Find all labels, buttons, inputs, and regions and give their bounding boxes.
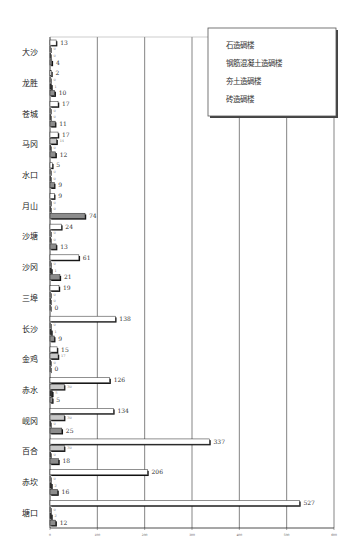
bar bbox=[50, 347, 57, 352]
bar bbox=[50, 360, 51, 365]
value-label: 134 bbox=[117, 407, 129, 414]
bar bbox=[50, 224, 61, 229]
bar bbox=[50, 169, 51, 174]
bar bbox=[50, 367, 51, 372]
category-label: 水口 bbox=[22, 170, 38, 180]
value-label-small: 30 bbox=[67, 446, 71, 450]
value-label: 13 bbox=[60, 39, 68, 46]
value-label-small: 0 bbox=[54, 477, 56, 481]
value-label: 61 bbox=[83, 254, 91, 261]
legend-item-brick: 砖造碉楼 bbox=[226, 94, 255, 104]
bar bbox=[50, 439, 210, 444]
category-label: 马冈 bbox=[22, 140, 38, 149]
bar bbox=[50, 286, 59, 291]
bar bbox=[50, 353, 58, 358]
bar-shadow bbox=[51, 78, 52, 83]
bar bbox=[50, 421, 51, 426]
bar bbox=[50, 261, 51, 266]
value-label: 138 bbox=[119, 315, 131, 322]
tick-label: 500 bbox=[284, 533, 290, 537]
bar-shadow bbox=[51, 368, 52, 373]
bar bbox=[50, 384, 64, 389]
tick-label: 400 bbox=[236, 533, 242, 537]
category-label: 长沙 bbox=[22, 324, 38, 334]
value-label-small: 0 bbox=[54, 231, 56, 235]
bar bbox=[50, 323, 51, 328]
bar bbox=[50, 255, 79, 260]
value-label-small: 0 bbox=[54, 453, 56, 457]
value-label-small: 0 bbox=[54, 207, 56, 211]
bar-shadow bbox=[51, 453, 52, 458]
bar-shadow bbox=[51, 508, 52, 513]
bar bbox=[50, 145, 51, 150]
value-label-small: 0 bbox=[54, 508, 56, 512]
legend-item-concrete: 钢筋混凝土造碉楼 bbox=[226, 58, 283, 68]
bar bbox=[50, 459, 59, 464]
value-label-small: 0 bbox=[54, 170, 56, 174]
bar-shadow bbox=[51, 477, 52, 482]
bar bbox=[50, 520, 56, 525]
bar bbox=[50, 292, 51, 297]
value-label-small: 17 bbox=[61, 354, 65, 358]
value-label: 5 bbox=[56, 396, 60, 403]
bar-shadow bbox=[51, 177, 52, 182]
bar bbox=[50, 244, 56, 249]
value-label-small: 0 bbox=[54, 47, 56, 51]
value-label-small: 0 bbox=[54, 115, 56, 119]
bar bbox=[50, 446, 64, 451]
bar bbox=[50, 71, 52, 76]
value-label-small: 0 bbox=[54, 323, 56, 327]
value-label: 13 bbox=[60, 243, 68, 250]
value-label: 11 bbox=[59, 120, 67, 127]
value-label-small: 0 bbox=[54, 238, 56, 242]
value-label-small: 14 bbox=[60, 139, 65, 143]
bar-shadow bbox=[51, 423, 52, 428]
value-label-small: 2 bbox=[55, 514, 57, 518]
bar bbox=[50, 47, 51, 52]
bar bbox=[50, 231, 51, 236]
bar bbox=[50, 139, 57, 144]
bar-shadow bbox=[51, 48, 52, 53]
category-label: 百合 bbox=[22, 446, 38, 456]
value-label: 9 bbox=[58, 181, 62, 188]
bar-shadow bbox=[51, 263, 52, 268]
bar bbox=[50, 60, 52, 65]
category-label: 金鸡 bbox=[22, 354, 38, 364]
value-label: 9 bbox=[58, 335, 62, 342]
bar bbox=[50, 391, 52, 396]
category-label: 龙胜 bbox=[22, 78, 38, 88]
bar bbox=[50, 101, 58, 106]
value-label-small: 5 bbox=[55, 391, 57, 395]
bar-shadow bbox=[51, 293, 52, 298]
bar bbox=[50, 428, 62, 433]
bar-shadow bbox=[51, 307, 52, 312]
bar bbox=[50, 200, 51, 205]
value-label: 126 bbox=[114, 376, 126, 383]
bar bbox=[50, 121, 55, 126]
bar bbox=[50, 207, 51, 212]
bar bbox=[50, 163, 52, 168]
bar bbox=[50, 507, 51, 512]
value-label: 17 bbox=[62, 131, 70, 138]
bar bbox=[50, 336, 54, 341]
bar bbox=[50, 108, 51, 113]
bar bbox=[50, 152, 56, 157]
bar bbox=[50, 53, 51, 58]
value-label: 5 bbox=[56, 161, 60, 168]
bar bbox=[50, 397, 52, 402]
bar bbox=[50, 316, 115, 321]
bar-shadow bbox=[51, 201, 52, 206]
category-label: 赤水 bbox=[22, 385, 38, 395]
value-label: 24 bbox=[65, 223, 73, 230]
bar bbox=[50, 77, 51, 82]
category-label: 三埠 bbox=[22, 293, 38, 303]
category-label: 大沙 bbox=[22, 47, 38, 57]
bar bbox=[50, 305, 51, 310]
value-label-small: 1 bbox=[55, 330, 57, 334]
category-label: 塘口 bbox=[22, 508, 38, 518]
bar bbox=[50, 176, 51, 181]
value-label: 4 bbox=[56, 59, 60, 66]
category-label: 苍城 bbox=[22, 109, 38, 119]
tick-label: 0 bbox=[49, 533, 51, 537]
value-label-small: 0 bbox=[54, 146, 56, 150]
